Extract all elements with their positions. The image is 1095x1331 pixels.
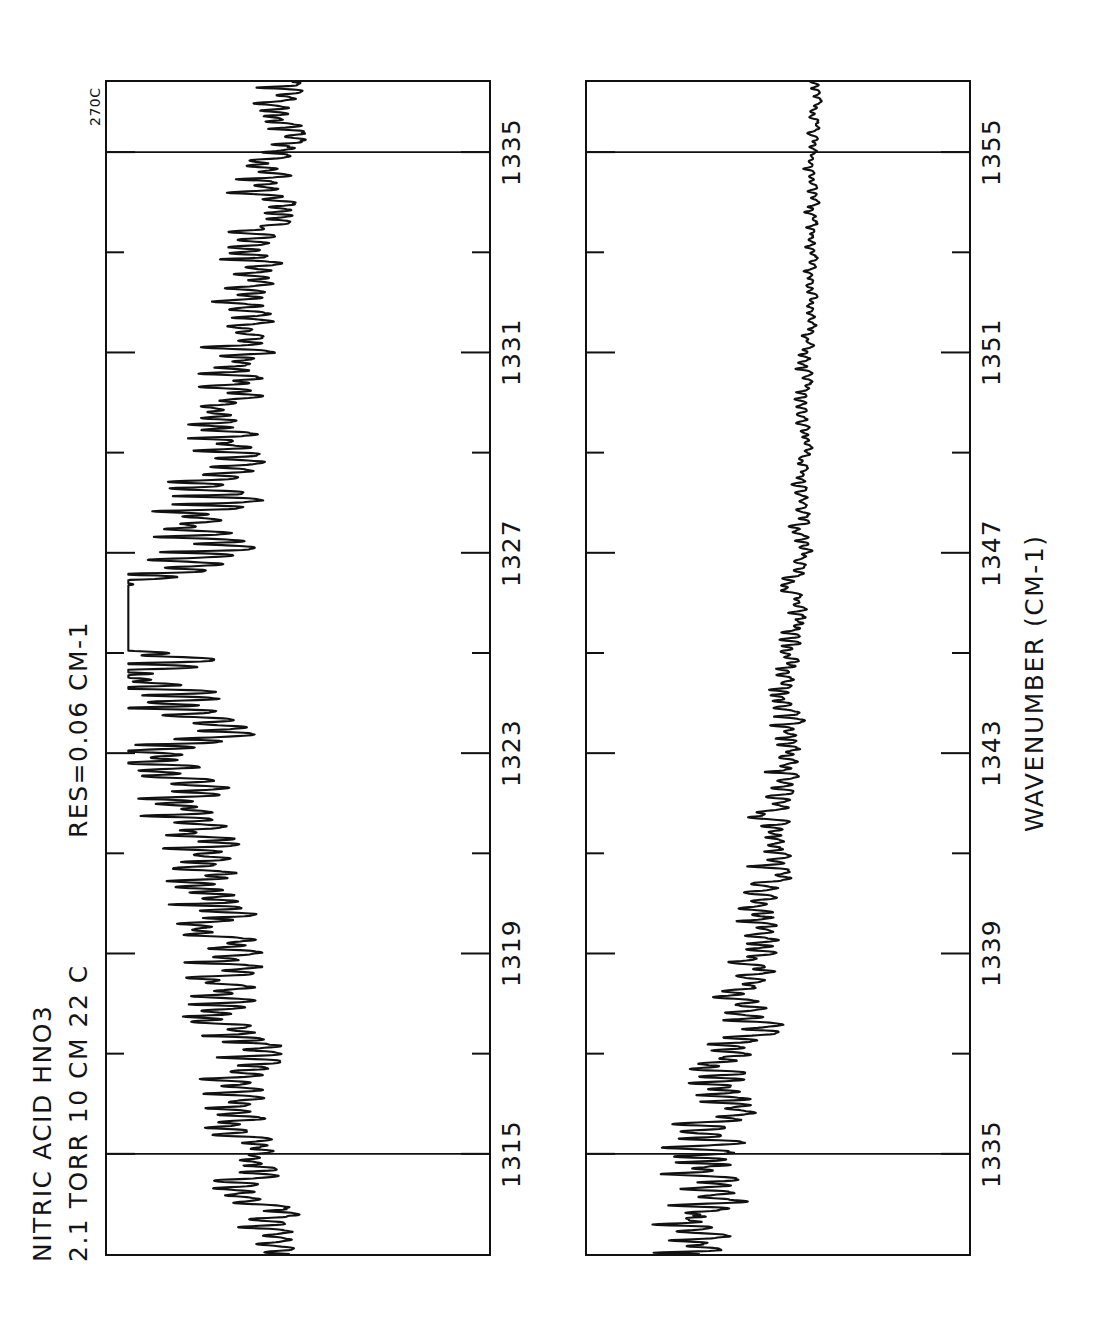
resolution-label: RES=0.06 CM-1: [66, 621, 91, 838]
axis-tick-label: 1351: [979, 319, 1004, 387]
axis-tick-label: 1339: [979, 920, 1004, 988]
upper-spectrum-panel: [105, 80, 491, 1256]
axis-tick-label: 1347: [979, 519, 1004, 587]
figure-title-line1: NITRIC ACID HNO3: [30, 1005, 55, 1262]
axis-tick-label: 1319: [499, 920, 524, 988]
figure-canvas: NITRIC ACID HNO3 2.1 TORR 10 CM 22 C RES…: [0, 0, 1095, 1331]
figure-title-line2: 2.1 TORR 10 CM 22 C: [66, 964, 91, 1262]
spectrum-trace: [652, 82, 821, 1254]
upper-spectrum-plot: [107, 82, 489, 1254]
corner-temperature-label: 270C: [88, 88, 102, 127]
spectrum-trace: [128, 82, 305, 1254]
axis-tick-label: 1335: [979, 1120, 1004, 1188]
axis-tick-label: 1355: [979, 118, 1004, 186]
axis-tick-label: 1323: [499, 720, 524, 788]
axis-tick-label: 1331: [499, 319, 524, 387]
lower-spectrum-panel: [585, 80, 971, 1256]
axis-tick-label: 1327: [499, 519, 524, 587]
axis-tick-label: 1335: [499, 118, 524, 186]
x-axis-title: WAVENUMBER (CM-1): [1022, 534, 1047, 832]
lower-spectrum-plot: [587, 82, 969, 1254]
axis-tick-label: 1315: [499, 1120, 524, 1188]
axis-tick-label: 1343: [979, 720, 1004, 788]
